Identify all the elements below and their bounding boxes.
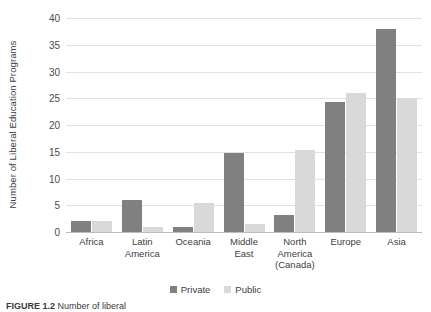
y-tick-label-5: 5 bbox=[54, 200, 60, 211]
bar-group bbox=[168, 18, 219, 232]
x-tick-label-line: North bbox=[270, 236, 319, 248]
x-tick-label-line: Europe bbox=[321, 236, 370, 248]
bar-public bbox=[397, 98, 417, 232]
bar-private bbox=[71, 221, 91, 232]
x-axis-tick-labels: AfricaLatinAmericaOceaniaMiddle EastNort… bbox=[66, 236, 422, 271]
bar-private bbox=[122, 200, 142, 232]
bar-group bbox=[371, 18, 422, 232]
legend-item-public[interactable]: Public bbox=[224, 284, 261, 295]
y-tick-label-35: 35 bbox=[49, 39, 60, 50]
figure-caption: FIGURE 1.2 Number of liberal bbox=[6, 301, 426, 311]
bar-private bbox=[224, 153, 244, 232]
x-tick-label-line: (Canada) bbox=[270, 259, 319, 271]
y-axis-title: Number of Liberal Education Programs bbox=[2, 0, 24, 248]
bar-public bbox=[346, 93, 366, 232]
x-tick-label-line: Asia bbox=[372, 236, 421, 248]
y-tick-label-0: 0 bbox=[54, 227, 60, 238]
bar-public bbox=[245, 224, 265, 232]
x-tick-label-line: America bbox=[270, 248, 319, 260]
bar-private bbox=[376, 29, 396, 232]
bar-public bbox=[194, 203, 214, 232]
bar-group bbox=[320, 18, 371, 232]
y-axis-title-label: Number of Liberal Education Programs bbox=[8, 40, 19, 208]
x-tick-label: Oceania bbox=[168, 236, 219, 271]
legend-item-private[interactable]: Private bbox=[170, 284, 211, 295]
x-tick-label: NorthAmerica(Canada) bbox=[269, 236, 320, 271]
bar-chart-figure: Number of Liberal Education Programs 403… bbox=[0, 0, 431, 312]
bar-group bbox=[219, 18, 270, 232]
x-tick-label: Asia bbox=[371, 236, 422, 271]
y-tick-label-20: 20 bbox=[49, 120, 60, 131]
y-tick-label-30: 30 bbox=[49, 66, 60, 77]
bar-public bbox=[92, 221, 112, 232]
gridline-0 bbox=[66, 232, 422, 233]
y-tick-label-10: 10 bbox=[49, 173, 60, 184]
legend-swatch-icon bbox=[224, 286, 231, 293]
x-tick-label: Africa bbox=[66, 236, 117, 271]
x-tick-label: Middle East bbox=[219, 236, 270, 271]
bars-layer bbox=[66, 18, 422, 232]
bar-public bbox=[143, 227, 163, 232]
bar-group bbox=[66, 18, 117, 232]
bar-private bbox=[274, 215, 294, 232]
figure-caption-text: Number of liberal bbox=[58, 301, 127, 311]
bar-group bbox=[117, 18, 168, 232]
x-tick-label: Europe bbox=[320, 236, 371, 271]
x-tick-label-line: Latin bbox=[118, 236, 167, 248]
y-tick-label-15: 15 bbox=[49, 146, 60, 157]
y-tick-label-25: 25 bbox=[49, 93, 60, 104]
x-tick-label-line: Africa bbox=[67, 236, 116, 248]
bar-private bbox=[173, 227, 193, 232]
x-tick-label: LatinAmerica bbox=[117, 236, 168, 271]
figure-caption-label: FIGURE 1.2 bbox=[6, 301, 55, 311]
x-tick-label-line: Middle East bbox=[220, 236, 269, 259]
x-tick-label-line: Oceania bbox=[169, 236, 218, 248]
legend-swatch-icon bbox=[170, 286, 177, 293]
bar-private bbox=[325, 102, 345, 232]
bar-group bbox=[269, 18, 320, 232]
y-axis-tick-labels: 4035302520151050 bbox=[28, 18, 60, 232]
y-tick-label-40: 40 bbox=[49, 13, 60, 24]
legend-label: Public bbox=[235, 284, 261, 295]
legend-label: Private bbox=[181, 284, 211, 295]
bar-public bbox=[295, 150, 315, 232]
chart-legend: PrivatePublic bbox=[0, 284, 431, 295]
x-tick-label-line: America bbox=[118, 248, 167, 260]
